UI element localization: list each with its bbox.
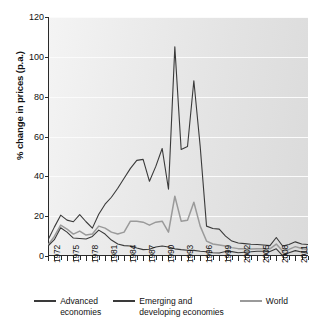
x-axis-tick-label: 2002 [242, 245, 252, 263]
x-axis-tick-label: 2008 [280, 245, 290, 263]
y-axis-tick-mark [45, 137, 48, 138]
series-line-world [48, 196, 308, 251]
x-axis-tick-mark [86, 256, 87, 261]
series-line-emerging-and-developing-economies [48, 47, 308, 246]
legend-label-line2: developing economies [139, 307, 224, 318]
legend-label-line1: Emerging and [139, 296, 192, 306]
x-axis-tick-mark [276, 256, 277, 261]
y-axis-title: % change in prices (p.a.) [14, 31, 25, 181]
x-axis-tick-mark [48, 256, 49, 261]
legend-swatch-advanced-economies [34, 300, 56, 302]
x-axis-tick-label: 1987 [147, 245, 157, 263]
y-axis-tick-mark [45, 57, 48, 58]
legend-item-world: World [240, 296, 288, 317]
x-axis-tick-mark [124, 256, 125, 261]
legend-item-emerging-and-developing-economies: Emerging and developing economies [113, 296, 224, 317]
x-axis-tick-label: 1981 [109, 245, 119, 263]
legend-label-line1: Advanced [60, 296, 98, 306]
legend-swatch-world [240, 300, 262, 302]
legend-swatch-emerging-and-developing-economies [113, 300, 135, 302]
x-axis-tick-label: 1999 [223, 245, 233, 263]
legend-item-advanced-economies: Advanced economies [34, 296, 101, 317]
x-axis-tick-mark [238, 256, 239, 261]
x-axis-tick-label: 1996 [204, 245, 214, 263]
x-axis-tick-label: 1972 [52, 245, 62, 263]
x-axis-tick-mark [181, 256, 182, 261]
chart-figure: % change in prices (p.a.) 02040608010012… [0, 0, 322, 325]
x-axis-tick-label: 1978 [90, 245, 100, 263]
y-axis-tick-mark [45, 216, 48, 217]
x-axis-tick-label: 1984 [128, 245, 138, 263]
chart-legend: Advanced economies Emerging and developi… [0, 296, 322, 317]
x-axis-tick-label: 1975 [71, 245, 81, 263]
x-axis-tick-mark [67, 256, 68, 261]
legend-label-emerging-and-developing-economies: Emerging and developing economies [139, 296, 224, 317]
x-axis-tick-mark [200, 256, 201, 261]
x-axis-ticks: 1972197519781981198419871990199319961999… [48, 256, 308, 292]
x-axis-tick-label: 1990 [166, 245, 176, 263]
x-axis-tick-mark [143, 256, 144, 261]
x-axis-tick-mark [257, 256, 258, 261]
y-axis-tick-mark [45, 176, 48, 177]
legend-label-line1: World [266, 296, 288, 306]
x-axis-tick-mark [105, 256, 106, 261]
x-axis-tick-mark [295, 256, 296, 261]
legend-label-advanced-economies: Advanced economies [60, 296, 101, 317]
y-axis-tick-mark [45, 17, 48, 18]
series-lines [48, 17, 308, 256]
x-axis-tick-mark [219, 256, 220, 261]
y-axis-tick-mark [45, 97, 48, 98]
x-axis-tick-label: 2011 [299, 246, 309, 263]
legend-label-world: World [266, 296, 288, 307]
legend-label-line2: economies [60, 307, 101, 318]
x-axis-tick-label: 1993 [185, 245, 195, 263]
x-axis-tick-mark [162, 256, 163, 261]
x-axis-tick-label: 2005 [261, 245, 271, 263]
plot-area: 020406080100120 [48, 17, 308, 256]
